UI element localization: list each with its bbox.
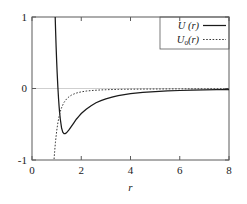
chart-figure: 02468 -101 r U(r) U0(r) <box>0 0 247 204</box>
potential-energy-plot: 02468 -101 r U(r) U0(r) <box>0 0 247 204</box>
y-tick-label: -1 <box>18 154 27 166</box>
x-tick-label: 0 <box>29 164 35 176</box>
x-tick-label: 6 <box>177 164 183 176</box>
chart-background <box>0 0 247 204</box>
x-tick-label: 8 <box>226 164 232 176</box>
y-tick-label: 1 <box>22 11 28 23</box>
x-axis-title: r <box>128 181 133 193</box>
y-tick-label: 0 <box>22 82 28 94</box>
legend-label-U: U(r) <box>178 20 200 32</box>
x-tick-label: 4 <box>128 164 134 176</box>
x-tick-label: 2 <box>79 164 85 176</box>
